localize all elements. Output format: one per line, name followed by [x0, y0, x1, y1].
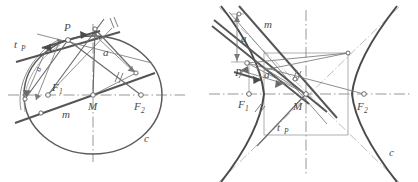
- label-line-m: m: [62, 108, 70, 120]
- arrowhead-a-upper-bottom: [234, 54, 240, 61]
- label-a-inner: a: [264, 68, 270, 80]
- label-point-p: P: [234, 66, 242, 78]
- label-line-m: m: [264, 18, 272, 30]
- label-tangent-tp: t: [14, 38, 18, 50]
- point-aux-top: [237, 12, 241, 16]
- diagram-page: t P P a a F 1 M F 2 m c: [0, 0, 418, 182]
- point-aux-left: [23, 97, 27, 101]
- point-aux-lowleft: [39, 111, 43, 115]
- segment-m-right: [93, 73, 136, 95]
- label-focus-2: F: [356, 100, 364, 112]
- point-f1: [46, 93, 51, 98]
- helper-m-upleft: [264, 68, 306, 94]
- label-focus-1-sub: 1: [245, 104, 249, 113]
- label-focus-1-sub: 1: [59, 87, 63, 96]
- point-p: [66, 38, 71, 43]
- point-aux-right: [134, 71, 138, 75]
- hyperbola-figure: a m P a F 1 M F 2 t P c: [209, 0, 418, 182]
- label-tangent-tp: t: [277, 121, 281, 133]
- point-aux-corner: [346, 51, 350, 55]
- point-m: [91, 93, 96, 98]
- segment-top-right: [95, 29, 136, 73]
- point-aux-top: [93, 27, 97, 31]
- point-f1: [247, 92, 252, 97]
- ellipse-svg: t P P a a F 1 M F 2 m c: [0, 0, 209, 182]
- arrowhead-p-right: [80, 31, 88, 39]
- label-point-p: P: [63, 21, 71, 33]
- point-m: [304, 92, 309, 97]
- label-focus-2: F: [133, 100, 141, 112]
- label-center-m: M: [292, 100, 303, 112]
- hatch-marks-top: [110, 17, 118, 28]
- point-f2: [362, 92, 367, 97]
- ellipse-figure: t P P a a F 1 M F 2 m c: [0, 0, 209, 182]
- point-f2: [139, 93, 144, 98]
- label-curve-c: c: [389, 146, 394, 158]
- label-tangent-tp-sub: P: [283, 127, 289, 136]
- label-a-right: a: [103, 46, 109, 58]
- tangent-line-tp: [214, 20, 327, 112]
- label-center-m: M: [87, 100, 98, 112]
- tangent-line-tp-2: [212, 26, 309, 104]
- hatch-marks-center: [255, 104, 265, 114]
- label-focus-1: F: [237, 98, 245, 110]
- arrowhead-a-inner-left: [241, 66, 249, 74]
- point-p: [245, 61, 250, 66]
- hyperbola-svg: a m P a F 1 M F 2 t P c: [209, 0, 418, 182]
- label-focus-2-sub: 2: [364, 106, 368, 115]
- point-aux-inner: [293, 77, 297, 81]
- label-tangent-tp-sub: P: [20, 44, 26, 53]
- label-a-upper: a: [241, 32, 247, 44]
- label-curve-c: c: [144, 132, 149, 144]
- label-focus-2-sub: 2: [141, 106, 145, 115]
- label-focus-1: F: [51, 81, 59, 93]
